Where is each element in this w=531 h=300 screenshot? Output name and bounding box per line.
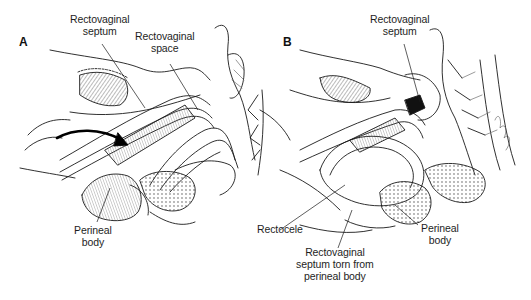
label-perineal-body-b: Perineal body — [421, 222, 459, 246]
panel-letter-a: A — [19, 35, 28, 49]
label-rectovaginal-septum-a: Rectovaginal septum — [70, 13, 130, 37]
label-perineal-body-a: Perineal body — [74, 224, 112, 248]
label-rectovaginal-space-a: Rectovaginal space — [135, 30, 195, 54]
panel-a-illustration — [0, 0, 531, 300]
panel-letter-b: B — [283, 35, 292, 49]
label-rectocele-b: Rectocele — [257, 223, 303, 235]
anatomical-figure: A B Rectovaginal septum Rectovaginal spa… — [0, 0, 531, 300]
label-septum-torn-b: Rectovaginal septum torn from perineal b… — [296, 246, 374, 282]
label-rectovaginal-septum-b: Rectovaginal septum — [370, 13, 430, 37]
